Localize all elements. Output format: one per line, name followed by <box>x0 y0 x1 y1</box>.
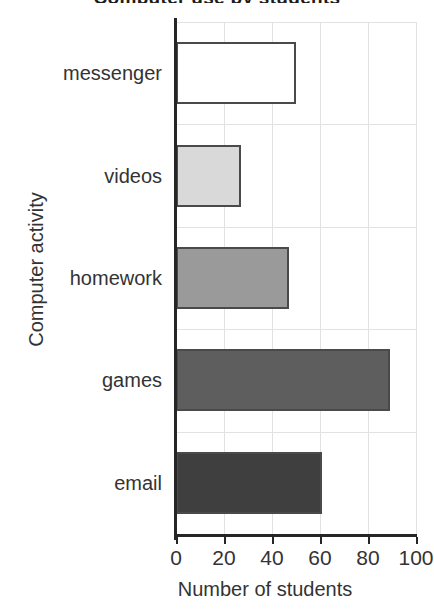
y-axis-line <box>174 18 177 540</box>
x-tick-mark <box>272 537 274 544</box>
bar-homework <box>176 247 289 309</box>
bar-chart-figure: Computer use by students Computer activi… <box>0 0 434 616</box>
x-tick-mark <box>176 537 178 544</box>
gridline-horizontal <box>176 124 416 125</box>
gridline-horizontal <box>176 22 416 23</box>
gridline-horizontal <box>176 227 416 228</box>
gridline-vertical <box>416 22 417 534</box>
x-tick-label-100: 100 <box>386 546 434 570</box>
gridline-vertical <box>368 22 369 534</box>
bar-email <box>176 452 322 514</box>
x-tick-mark <box>368 537 370 544</box>
y-tick-label-homework: homework <box>0 267 162 290</box>
y-tick-label-messenger: messenger <box>0 62 162 85</box>
y-tick-label-videos: videos <box>0 164 162 187</box>
bar-videos <box>176 145 241 207</box>
x-axis-tick-labels: 020406080100 <box>0 546 434 574</box>
chart-title: Computer use by students <box>0 0 434 3</box>
x-axis-line <box>174 534 417 537</box>
bar-messenger <box>176 42 296 104</box>
y-axis-tick-labels: messengervideoshomeworkgamesemail <box>0 22 168 534</box>
y-tick-label-email: email <box>0 471 162 494</box>
gridline-horizontal <box>176 329 416 330</box>
x-tick-mark <box>224 537 226 544</box>
x-axis-title: Number of students <box>100 578 430 601</box>
gridline-horizontal <box>176 432 416 433</box>
y-tick-label-games: games <box>0 369 162 392</box>
bar-games <box>176 349 390 411</box>
plot-area <box>176 22 416 534</box>
x-tick-mark <box>416 537 418 544</box>
x-tick-mark <box>320 537 322 544</box>
